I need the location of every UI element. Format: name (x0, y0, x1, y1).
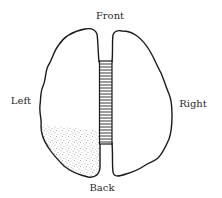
label-front: Front (96, 10, 124, 21)
callosum-hatching (100, 64, 112, 142)
label-back: Back (90, 182, 116, 193)
label-left: Left (11, 95, 31, 106)
stippled-region (35, 124, 100, 180)
corpus-callosum (100, 61, 113, 144)
brain-diagram: Front Left Right Back (0, 0, 222, 198)
right-hemisphere (112, 31, 172, 176)
label-right: Right (179, 98, 207, 109)
